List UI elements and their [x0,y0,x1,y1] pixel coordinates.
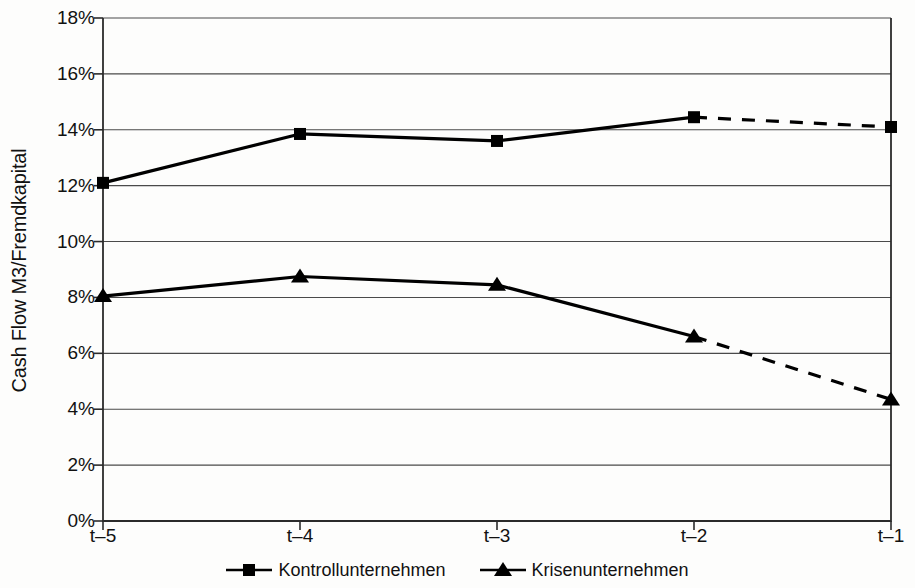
square-marker [491,135,503,147]
legend-label: Kontrollunternehmen [278,560,445,581]
series-segment [103,276,300,296]
square-marker [294,128,306,140]
axis-lines [103,18,891,522]
x-tick-label: t–2 [681,525,707,547]
line-chart-figure: Cash Flow M3/Fremdkapital 0%2%4%6%8%10%1… [0,0,915,588]
series-segment-dashed [694,117,891,127]
legend-label: Krisenunternehmen [532,560,689,581]
series-segment [300,276,497,284]
square-marker [243,564,255,576]
x-tick-label: t–5 [90,525,116,547]
plot-area [103,18,891,521]
series-segment [300,134,497,141]
legend-triangle-icon [480,562,526,578]
x-axis-tick-labels: t–5t–4t–3t–2t–1 [0,525,915,555]
series-2 [94,268,900,405]
legend-entry[interactable]: Krisenunternehmen [480,560,689,581]
gridlines [103,18,891,521]
x-tick-label: t–1 [878,525,904,547]
series-segment [497,117,694,141]
series-segment [497,285,694,337]
square-marker [885,121,897,133]
axis-ticks [94,18,891,530]
x-tick-label: t–4 [287,525,313,547]
square-marker [97,177,109,189]
square-marker [688,111,700,123]
series-segment [103,134,300,183]
legend-entry[interactable]: Kontrollunternehmen [226,560,445,581]
legend-square-icon [226,562,272,578]
series-segment-dashed [694,337,891,400]
data-series [94,111,900,405]
x-tick-label: t–3 [484,525,510,547]
chart-svg [0,0,915,570]
series-1 [97,111,897,189]
chart-legend: KontrollunternehmenKrisenunternehmen [0,556,915,584]
